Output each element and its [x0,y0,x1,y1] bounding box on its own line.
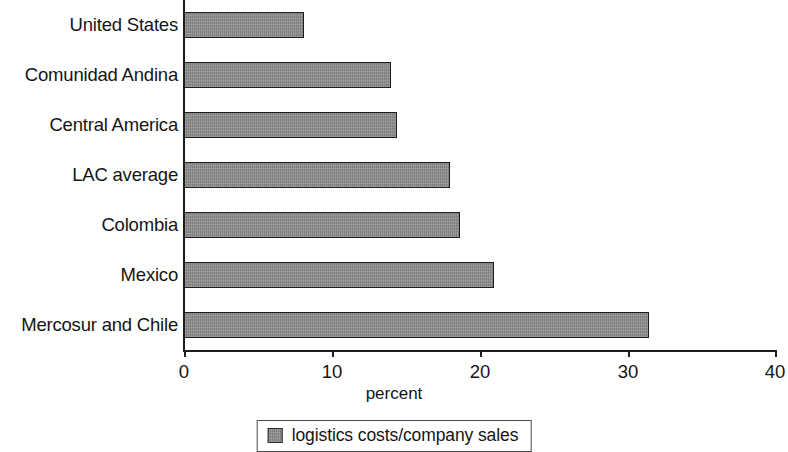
bar-track [184,100,784,150]
bar-row: Central America [0,100,788,150]
category-label: Central America [0,100,178,150]
x-tick-0 [184,350,186,357]
bar-united-states[interactable] [184,12,304,38]
x-tick-10 [332,350,334,357]
category-label: Colombia [0,200,178,250]
category-label: Mexico [0,250,178,300]
x-tick-20 [480,350,482,357]
bar-row: Mercosur and Chile [0,300,788,350]
bar-central-america[interactable] [184,112,397,138]
x-tick-label-0: 0 [179,361,189,383]
category-label: Comunidad Andina [0,50,178,100]
x-tick-label-40: 40 [765,361,786,383]
bar-mercosur-and-chile[interactable] [184,312,649,338]
legend-label: logistics costs/company sales [292,425,519,446]
category-label: LAC average [0,150,178,200]
x-tick-30 [628,350,630,357]
bar-row: United States [0,0,788,50]
bar-row: Comunidad Andina [0,50,788,100]
bar-track [184,250,784,300]
bar-track [184,300,784,350]
bar-track [184,150,784,200]
legend-swatch-icon [268,428,283,443]
bar-row: LAC average [0,150,788,200]
category-label: United States [0,0,178,50]
bar-mexico[interactable] [184,262,494,288]
bar-row: Colombia [0,200,788,250]
x-axis-title: percent [0,384,788,404]
bar-lac-average[interactable] [184,162,450,188]
bar-row: Mexico [0,250,788,300]
x-tick-label-30: 30 [618,361,639,383]
category-label: Mercosur and Chile [0,300,178,350]
bar-track [184,200,784,250]
x-axis: 0 10 20 30 40 [184,350,775,351]
bar-comunidad-andina[interactable] [184,62,391,88]
bar-track [184,50,784,100]
bar-colombia[interactable] [184,212,460,238]
x-tick-label-20: 20 [470,361,491,383]
bar-track [184,0,784,50]
x-tick-40 [775,350,777,357]
x-tick-label-10: 10 [322,361,343,383]
legend: logistics costs/company sales [257,420,532,452]
plot-area: United States Comunidad Andina Central A… [0,0,788,356]
